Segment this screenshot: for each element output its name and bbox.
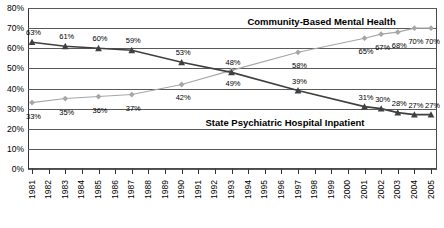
data-point-label: 30%: [375, 96, 390, 104]
data-point-label: 68%: [392, 42, 407, 50]
x-axis-tick-mark: [148, 169, 149, 174]
data-point-marker: [62, 96, 68, 102]
data-point-label: 48%: [226, 59, 241, 67]
x-axis-tick-mark: [165, 169, 166, 174]
line-chart: 0%10%20%30%40%50%60%70%80% 1981198219831…: [0, 0, 444, 228]
x-axis-tick-mark: [49, 169, 50, 174]
data-point-label: 37%: [126, 105, 141, 113]
data-point-label: 61%: [59, 33, 74, 41]
data-point-label: 59%: [126, 37, 141, 45]
x-axis-tick-mark: [65, 169, 66, 174]
data-point-label: 53%: [176, 49, 191, 57]
data-point-label: 70%: [425, 38, 440, 46]
y-axis-tick-label: 80%: [0, 4, 24, 13]
x-axis-tick-label: 1997: [294, 180, 303, 199]
x-axis-tick-mark: [265, 169, 266, 174]
x-axis-tick-mark: [132, 169, 133, 174]
data-point-label: 36%: [93, 107, 108, 115]
x-axis-tick-label: 2004: [410, 180, 419, 199]
data-point-label: 39%: [292, 78, 307, 86]
x-axis-tick-label: 2002: [377, 180, 386, 199]
data-point-marker: [295, 49, 301, 55]
data-point-label: 49%: [226, 80, 241, 88]
data-point-label: 35%: [59, 109, 74, 117]
x-axis-tick-label: 2001: [360, 180, 369, 199]
data-point-label: 58%: [292, 62, 307, 70]
x-axis-tick-label: 1990: [177, 180, 186, 199]
x-axis-tick-mark: [298, 169, 299, 174]
y-axis-tick-label: 40%: [0, 85, 24, 94]
x-axis-tick-mark: [182, 169, 183, 174]
gridline: [28, 169, 437, 170]
x-axis-tick-label: 1999: [327, 180, 336, 199]
x-axis-tick-label: 1995: [260, 180, 269, 199]
data-point-label: 31%: [359, 94, 374, 102]
data-point-label: 67%: [375, 44, 390, 52]
x-axis-tick-label: 1992: [210, 180, 219, 199]
data-point-marker: [29, 100, 35, 106]
x-axis-tick-mark: [398, 169, 399, 174]
x-axis-tick-label: 2003: [393, 180, 402, 199]
x-axis-tick-mark: [281, 169, 282, 174]
x-axis-tick-label: 1986: [111, 180, 120, 199]
x-axis-tick-label: 1987: [127, 180, 136, 199]
x-axis-tick-mark: [414, 169, 415, 174]
data-point-label: 28%: [392, 100, 407, 108]
x-axis-tick-mark: [198, 169, 199, 174]
data-point-label: 33%: [26, 113, 41, 121]
plot-area: 0%10%20%30%40%50%60%70%80% 1981198219831…: [28, 8, 437, 169]
x-axis-tick-label: 1984: [77, 180, 86, 199]
x-axis-tick-mark: [348, 169, 349, 174]
data-point-label: 60%: [93, 35, 108, 43]
data-point-label: 42%: [176, 94, 191, 102]
x-axis-tick-label: 1981: [28, 180, 37, 199]
data-point-label: 27%: [425, 102, 440, 110]
series-lines: [28, 8, 437, 169]
x-axis-tick-mark: [431, 169, 432, 174]
x-axis-tick-label: 1998: [310, 180, 319, 199]
y-axis-tick-label: 50%: [0, 64, 24, 73]
x-axis-tick-label: 1988: [144, 180, 153, 199]
data-point-label: 65%: [359, 48, 374, 56]
x-axis-tick-mark: [365, 169, 366, 174]
series-label-community-based: Community-Based Mental Health: [245, 16, 397, 27]
x-axis-tick-label: 1989: [161, 180, 170, 199]
data-point-label: 27%: [408, 102, 423, 110]
data-point-marker: [179, 82, 185, 88]
x-axis-tick-mark: [315, 169, 316, 174]
data-point-label: 63%: [26, 29, 41, 37]
x-axis-tick-label: 1991: [194, 180, 203, 199]
x-axis-tick-mark: [248, 169, 249, 174]
x-axis-tick-mark: [381, 169, 382, 174]
x-axis-tick-mark: [32, 169, 33, 174]
x-axis-tick-mark: [331, 169, 332, 174]
x-axis-tick-label: 1983: [61, 180, 70, 199]
x-axis-tick-mark: [99, 169, 100, 174]
y-axis-tick-label: 20%: [0, 125, 24, 134]
x-axis-tick-mark: [215, 169, 216, 174]
x-axis-tick-label: 1993: [227, 180, 236, 199]
x-axis-tick-label: 1985: [94, 180, 103, 199]
data-point-marker: [96, 94, 102, 100]
series-label-state-psychiatric: State Psychiatric Hospital Inpatient: [204, 117, 367, 128]
x-axis-tick-mark: [232, 169, 233, 174]
y-axis-tick-label: 70%: [0, 24, 24, 33]
data-point-label: 70%: [408, 38, 423, 46]
x-axis-tick-label: 1996: [277, 180, 286, 199]
data-point-marker: [411, 25, 417, 31]
data-point-marker: [428, 25, 434, 31]
x-axis-tick-label: 2005: [427, 180, 436, 199]
y-axis-tick-label: 30%: [0, 105, 24, 114]
x-axis-tick-label: 1982: [44, 180, 53, 199]
x-axis-tick-label: 1994: [244, 180, 253, 199]
data-point-marker: [129, 92, 135, 98]
y-axis-tick-label: 0%: [0, 165, 24, 174]
x-axis-tick-mark: [82, 169, 83, 174]
y-axis-tick-label: 10%: [0, 145, 24, 154]
y-axis-tick-label: 60%: [0, 44, 24, 53]
data-point-marker: [395, 29, 401, 35]
x-axis-tick-label: 2000: [343, 180, 352, 199]
data-point-marker: [362, 35, 368, 41]
data-point-marker: [378, 31, 384, 37]
x-axis-tick-mark: [115, 169, 116, 174]
